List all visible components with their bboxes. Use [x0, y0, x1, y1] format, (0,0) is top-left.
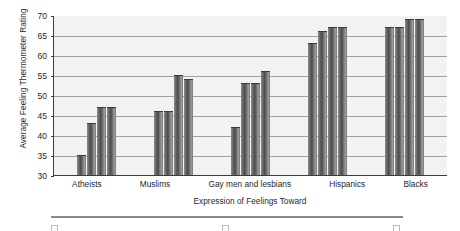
bar [241, 83, 250, 175]
legend-item [222, 225, 232, 231]
bar [184, 79, 193, 175]
bar-group [385, 16, 424, 175]
bar [415, 19, 424, 175]
y-axis-tick-label: 35 [27, 151, 47, 161]
legend-swatch [222, 225, 229, 231]
legend-swatch [51, 225, 58, 231]
chart-legend [51, 225, 403, 231]
bar [107, 107, 116, 175]
y-axis-tick-label: 30 [27, 171, 47, 181]
bar-group [231, 16, 270, 175]
bar [87, 123, 96, 175]
bar [231, 127, 240, 175]
y-axis-tick-label: 60 [27, 51, 47, 61]
bar [251, 83, 260, 175]
bar [77, 155, 86, 175]
bar-group [77, 16, 116, 175]
bar-group [308, 16, 347, 175]
bar [308, 43, 317, 175]
bar [164, 111, 173, 175]
bar-groups [54, 16, 447, 175]
plot-panel [53, 16, 447, 176]
bar [261, 71, 270, 175]
bar-group [154, 16, 193, 175]
x-axis-tick-label: Gay men and lesbians [208, 179, 291, 189]
bar [174, 75, 183, 175]
y-axis-tick-label: 70 [27, 11, 47, 21]
bar [318, 31, 327, 175]
y-axis-tick-label: 50 [27, 91, 47, 101]
x-axis-tick-label: Blacks [403, 179, 427, 189]
x-axis-title: Expression of Feelings Toward [53, 196, 447, 206]
y-axis-tick-label: 45 [27, 111, 47, 121]
legend-item [393, 225, 403, 231]
legend-swatch [393, 225, 400, 231]
chart-figure: Average Feeling Thermometer Rating 30354… [0, 0, 460, 231]
legend-item [51, 225, 61, 231]
figure-divider [51, 216, 403, 218]
x-axis-tick-labels: AtheistsMuslimsGay men and lesbiansHispa… [53, 179, 447, 189]
bar [385, 27, 394, 175]
bar [395, 27, 404, 175]
bar [405, 19, 414, 175]
bar [328, 27, 337, 175]
bar [154, 111, 163, 175]
y-axis-tick-label: 40 [27, 131, 47, 141]
y-axis-tick-labels: 303540455055606570 [27, 16, 47, 176]
y-axis-tick [51, 176, 54, 177]
y-axis-tick-label: 55 [27, 71, 47, 81]
x-axis-tick-label: Atheists [72, 179, 102, 189]
x-axis-tick-label: Muslims [140, 179, 170, 189]
bar [97, 107, 106, 175]
plot-area: 303540455055606570 [27, 16, 447, 176]
bar [338, 27, 347, 175]
y-axis-tick-label: 65 [27, 31, 47, 41]
x-axis-tick-label: Hispanics [329, 179, 365, 189]
